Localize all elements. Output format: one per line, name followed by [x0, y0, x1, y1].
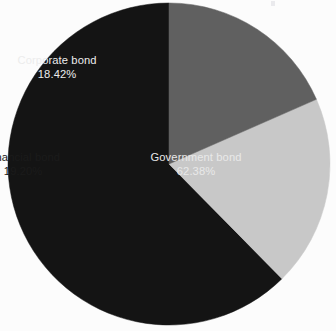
- scan-artifact-speck: [271, 1, 275, 6]
- pie-chart-canvas: [0, 0, 336, 331]
- pie-chart-figure: Government bond 62.38% Corporate bond 18…: [0, 0, 336, 331]
- pie-slices: [8, 3, 330, 325]
